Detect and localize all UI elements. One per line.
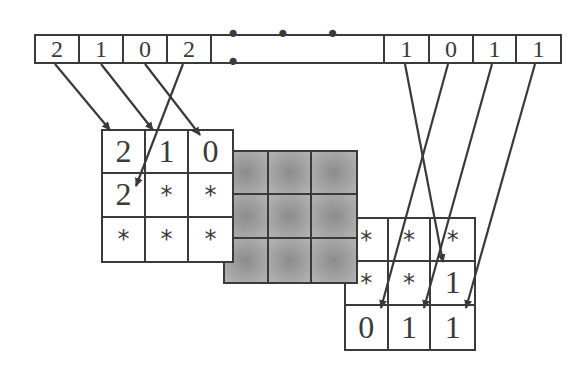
right-grid-cell: *	[431, 219, 474, 262]
strip-cell-3: 0	[124, 36, 168, 62]
right-grid-cell: *	[389, 219, 432, 262]
strip-cell-6: 0	[430, 36, 474, 62]
shaded-grid-cell	[312, 152, 356, 195]
left-grid-cell: 2	[103, 131, 146, 174]
strip-ellipsis: • • • •	[212, 36, 385, 62]
right-grid-cell: *	[389, 262, 432, 305]
left-grid-cell: *	[146, 174, 189, 217]
left-grid-cell: *	[189, 218, 232, 261]
arrow-icon	[55, 64, 110, 130]
shaded-grid-cell	[269, 152, 313, 195]
arrow-icon	[466, 64, 535, 308]
arrow-icon	[101, 64, 153, 130]
left-grid-cell: *	[103, 218, 146, 261]
shaded-grid-cell	[312, 195, 356, 238]
strip-cell-2: 1	[80, 36, 124, 62]
strip-cell-4: 2	[168, 36, 212, 62]
right-grid-cell: 0	[346, 306, 389, 349]
digit-stream-strip: 2 1 0 2 • • • • 1 0 1 1	[34, 34, 562, 64]
right-grid-cell: 1	[431, 262, 474, 305]
left-grid-block: 2 1 0 2 * * * * *	[101, 129, 234, 263]
right-grid-block: * * * * * 1 0 1 1	[344, 217, 476, 351]
shaded-grid-cell	[312, 239, 356, 282]
shaded-grid-cell	[269, 239, 313, 282]
shaded-grid-block	[223, 150, 358, 284]
shaded-grid-cell	[269, 195, 313, 238]
left-grid-cell: 2	[103, 174, 146, 217]
left-grid-cell: 1	[146, 131, 189, 174]
strip-cell-1: 2	[36, 36, 80, 62]
right-grid-cell: 1	[389, 306, 432, 349]
right-grid-cell: 1	[431, 306, 474, 349]
left-grid-cell: *	[146, 218, 189, 261]
left-grid-cell: 0	[189, 131, 232, 174]
arrow-icon	[145, 64, 200, 135]
strip-cell-7: 1	[474, 36, 517, 62]
strip-cell-5: 1	[385, 36, 430, 62]
left-grid-cell: *	[189, 174, 232, 217]
strip-cell-8: 1	[517, 36, 560, 62]
